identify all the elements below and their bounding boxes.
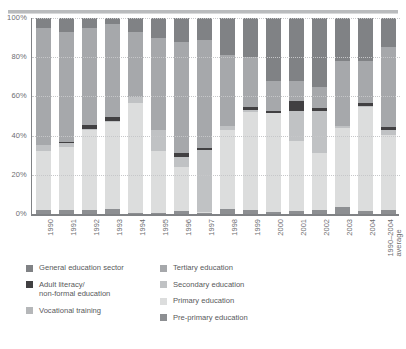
legend-swatch-icon: [160, 314, 167, 321]
stacked-bar[interactable]: [358, 18, 372, 214]
bar-segment[interactable]: [335, 18, 349, 61]
bar-segment[interactable]: [335, 207, 349, 214]
bar-column[interactable]: [124, 18, 147, 214]
bar-segment[interactable]: [174, 167, 188, 211]
bar-column[interactable]: [285, 18, 308, 214]
legend-item[interactable]: Tertiary education: [160, 263, 360, 273]
stacked-bar[interactable]: [105, 18, 119, 214]
gridline: [32, 96, 400, 97]
bar-column[interactable]: [216, 18, 239, 214]
stacked-bar[interactable]: [82, 18, 96, 214]
bar-segment[interactable]: [128, 18, 142, 32]
bar-column[interactable]: [170, 18, 193, 214]
bar-segment[interactable]: [82, 18, 96, 28]
bar-column[interactable]: [262, 18, 285, 214]
bar-segment[interactable]: [197, 150, 211, 212]
bar-segment[interactable]: [312, 111, 326, 153]
bar-segment[interactable]: [151, 130, 165, 151]
bar-segment[interactable]: [243, 57, 257, 107]
bar-segment[interactable]: [197, 40, 211, 149]
x-axis-tick: 2003: [330, 217, 353, 265]
bar-segment[interactable]: [174, 157, 188, 167]
bar-segment[interactable]: [335, 61, 349, 126]
bar-segment[interactable]: [105, 24, 119, 117]
bar-column[interactable]: [55, 18, 78, 214]
bar-segment[interactable]: [289, 111, 303, 141]
bar-segment[interactable]: [358, 18, 372, 61]
bar-column[interactable]: [32, 18, 55, 214]
legend-label: Vocational training: [39, 306, 101, 316]
legend-item[interactable]: General education sector: [26, 263, 160, 273]
stacked-bar[interactable]: [381, 18, 395, 214]
bar-column[interactable]: [78, 18, 101, 214]
legend-item[interactable]: Adult literacy/ non-formal education: [26, 280, 160, 299]
stacked-bar[interactable]: [312, 18, 326, 214]
stacked-bar[interactable]: [197, 18, 211, 214]
stacked-bar[interactable]: [59, 18, 73, 214]
bar-segment[interactable]: [358, 107, 372, 211]
stacked-bar[interactable]: [243, 18, 257, 214]
bar-segment[interactable]: [82, 28, 96, 125]
stacked-bar[interactable]: [266, 18, 280, 214]
bar-segment[interactable]: [36, 18, 50, 28]
bar-segment[interactable]: [312, 18, 326, 87]
bar-segment[interactable]: [381, 18, 395, 47]
bar-segment[interactable]: [266, 18, 280, 81]
bar-segment[interactable]: [289, 81, 303, 102]
bar-segment[interactable]: [243, 112, 257, 210]
bar-column[interactable]: [147, 18, 170, 214]
bar-segment[interactable]: [151, 38, 165, 131]
gridline: [32, 136, 400, 137]
legend-label: Primary education: [173, 296, 234, 306]
bar-segment[interactable]: [128, 103, 142, 213]
bar-segment[interactable]: [59, 32, 73, 143]
x-axis-tick: 1994: [123, 217, 146, 265]
bar-segment[interactable]: [174, 18, 188, 42]
bar-segment[interactable]: [381, 47, 395, 127]
bar-segment[interactable]: [220, 18, 234, 55]
stacked-bar[interactable]: [151, 18, 165, 214]
bar-segment[interactable]: [82, 130, 96, 210]
legend-label: Tertiary education: [173, 263, 233, 273]
stacked-bar[interactable]: [36, 18, 50, 214]
bar-segment[interactable]: [59, 147, 73, 210]
bar-segment[interactable]: [220, 55, 234, 126]
bar-column[interactable]: [354, 18, 377, 214]
bar-segment[interactable]: [220, 130, 234, 209]
bar-column[interactable]: [193, 18, 216, 214]
bar-segment[interactable]: [197, 18, 211, 40]
bar-segment[interactable]: [289, 141, 303, 211]
bar-segment[interactable]: [266, 113, 280, 212]
bar-segment[interactable]: [59, 18, 73, 32]
bar-segment[interactable]: [243, 18, 257, 57]
bar-segment[interactable]: [151, 151, 165, 213]
bar-segment[interactable]: [381, 135, 395, 210]
legend-item[interactable]: Vocational training: [26, 306, 160, 316]
stacked-bar[interactable]: [289, 18, 303, 214]
x-axis-tick: 2001: [284, 217, 307, 265]
bar-segment[interactable]: [289, 18, 303, 81]
stacked-bar[interactable]: [174, 18, 188, 214]
bar-segment[interactable]: [128, 32, 142, 97]
bar-segment[interactable]: [312, 87, 326, 109]
bar-segment[interactable]: [312, 153, 326, 210]
legend-item[interactable]: Primary education: [160, 296, 360, 306]
legend-label: Secondary education: [173, 280, 244, 290]
bar-column[interactable]: [377, 18, 400, 214]
bar-column[interactable]: [239, 18, 262, 214]
legend-item[interactable]: Secondary education: [160, 280, 360, 290]
legend-column-1: General education sectorAdult literacy/ …: [26, 263, 160, 347]
bar-segment[interactable]: [151, 18, 165, 38]
bar-segment[interactable]: [289, 101, 303, 111]
bar-column[interactable]: [101, 18, 124, 214]
bar-segment[interactable]: [335, 128, 349, 207]
stacked-bar[interactable]: [335, 18, 349, 214]
legend-item[interactable]: Pre-primary education: [160, 313, 360, 323]
stacked-bar[interactable]: [220, 18, 234, 214]
bar-column[interactable]: [308, 18, 331, 214]
bar-segment[interactable]: [36, 28, 50, 146]
stacked-bar[interactable]: [128, 18, 142, 214]
chart-plot-area: 100%80%60%40%20%0% 199019911992199319941…: [0, 18, 406, 233]
bar-column[interactable]: [331, 18, 354, 214]
bar-segment[interactable]: [36, 151, 50, 210]
